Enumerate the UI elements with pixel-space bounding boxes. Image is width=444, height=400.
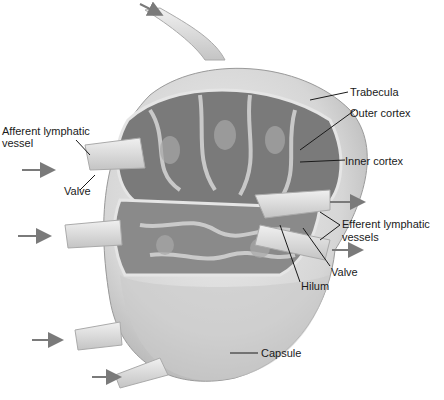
label-hilum: Hilum: [301, 280, 329, 292]
label-valve-left: Valve: [64, 185, 91, 197]
label-inner-cortex: Inner cortex: [345, 155, 403, 167]
label-capsule: Capsule: [261, 347, 301, 359]
lymph-node-illustration: [0, 0, 444, 400]
label-efferent-line1: Efferent lymphatic: [342, 218, 430, 230]
label-efferent-line2: vessels: [342, 231, 379, 243]
label-afferent-line1: Afferent lymphatic: [2, 125, 90, 137]
label-outer-cortex: Outer cortex: [350, 107, 411, 119]
label-trabecula: Trabecula: [350, 86, 399, 98]
lymph-node-diagram: Trabecula Outer cortex Inner cortex Affe…: [0, 0, 444, 400]
label-valve-right: Valve: [331, 266, 358, 278]
label-afferent-line2: vessel: [2, 137, 33, 149]
